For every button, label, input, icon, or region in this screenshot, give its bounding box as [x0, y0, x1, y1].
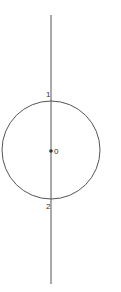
- diagram-canvas: 0 1 2: [0, 0, 121, 292]
- top-intersection-label: 1: [46, 90, 51, 99]
- center-label: 0: [54, 147, 59, 156]
- bottom-intersection-label: 2: [46, 202, 51, 211]
- center-point: [49, 149, 53, 153]
